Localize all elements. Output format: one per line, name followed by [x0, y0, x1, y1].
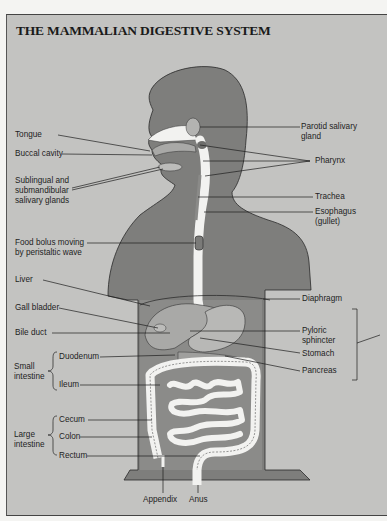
label-diaphragm: Diaphragm [302, 294, 342, 304]
parotid-gland-shape [186, 118, 200, 136]
label-anus: Anus [189, 495, 208, 505]
label-ileum: Ileum [59, 380, 79, 390]
label-duodenum: Duodenum [59, 352, 99, 362]
label-bile-duct: Bile duct [15, 328, 46, 338]
label-esophagus-line2: (gullet) [315, 217, 340, 227]
label-gall-bladder: Gall bladder [15, 303, 59, 313]
label-large-intestine-line1: Large [14, 430, 35, 440]
label-parotid-line2: gland [301, 132, 321, 142]
food-bolus-shape [195, 236, 203, 250]
label-sublingual-line3: salivary glands [15, 196, 69, 206]
label-trachea: Trachea [315, 192, 345, 202]
label-esophagus-line1: Esophagus [315, 207, 356, 217]
label-stomach: Stomach [302, 349, 334, 359]
label-small-intestine-line2: intestine [14, 372, 45, 382]
label-sublingual-line1: Sublingual and [15, 176, 69, 186]
label-pancreas: Pancreas [302, 366, 337, 376]
gall-bladder-shape [154, 324, 166, 332]
label-food-bolus-line2: by peristaltic wave [15, 248, 82, 258]
label-sublingual-line2: submandibular [15, 186, 69, 196]
label-tongue: Tongue [15, 130, 42, 140]
label-appendix: Appendix [143, 495, 177, 505]
label-small-intestine-line1: Small [14, 362, 34, 372]
label-food-bolus-line1: Food bolus moving [15, 238, 84, 248]
label-pyloric-line1: Pyloric [302, 326, 327, 336]
label-colon: Colon [59, 432, 80, 442]
label-buccal-cavity: Buccal cavity [15, 149, 63, 159]
label-pharynx: Pharynx [315, 156, 345, 166]
label-liver: Liver [15, 275, 33, 285]
label-cecum: Cecum [59, 415, 85, 425]
label-parotid-line1: Parotid salivary [301, 122, 357, 132]
label-large-intestine-line2: intestine [14, 440, 45, 450]
salivary-glands-shape [158, 163, 182, 171]
label-pyloric-line2: sphincter [302, 336, 335, 346]
label-rectum: Rectum [59, 451, 87, 461]
